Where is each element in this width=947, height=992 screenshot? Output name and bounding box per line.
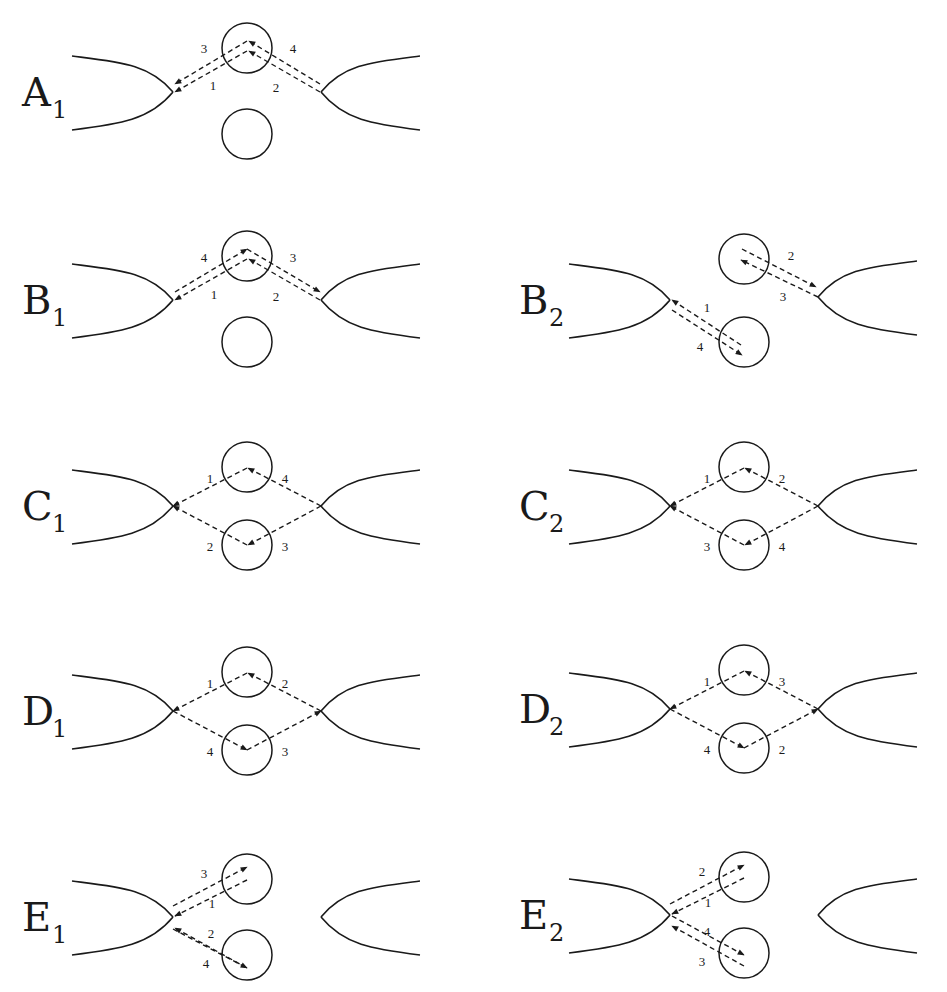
trajectory-segment xyxy=(672,310,742,355)
panel-d1: D11234 xyxy=(22,647,420,775)
segment-number-label: 4 xyxy=(290,41,297,56)
right-point-contact xyxy=(321,56,420,130)
panel-label-letter: E xyxy=(22,894,51,940)
segment-number-label: 1 xyxy=(704,674,711,689)
right-point-contact xyxy=(818,879,917,953)
panel-label-letter: E xyxy=(519,892,548,938)
left-point-contact xyxy=(72,881,173,955)
left-point-contact xyxy=(569,879,670,953)
segment-number-label: 1 xyxy=(704,300,711,315)
upper-scatterer-circle xyxy=(719,442,769,492)
left-point-contact xyxy=(72,56,173,130)
trajectory-diagram: A11234B11234B21234C11234C21234D11234D212… xyxy=(0,0,947,992)
segment-number-label: 3 xyxy=(704,539,711,554)
segment-number-label: 1 xyxy=(210,78,217,93)
panel-label-subscript: 1 xyxy=(52,304,67,332)
right-point-contact xyxy=(818,673,917,747)
segment-number-label: 1 xyxy=(209,896,216,911)
panels-layer: A11234B11234B21234C11234C21234D11234D212… xyxy=(21,23,917,980)
trajectory-segment xyxy=(247,249,320,292)
segment-number-label: 2 xyxy=(273,80,280,95)
upper-scatterer-circle xyxy=(222,854,272,904)
trajectory-segment xyxy=(249,41,320,84)
panel-label-letter: D xyxy=(22,688,54,734)
right-point-contact xyxy=(321,881,420,955)
right-point-contact xyxy=(321,264,420,338)
panel-label-subscript: 1 xyxy=(52,715,67,743)
upper-scatterer-circle xyxy=(719,852,769,902)
upper-scatterer-circle xyxy=(222,442,272,492)
lower-scatterer-circle xyxy=(719,317,769,367)
left-point-contact xyxy=(569,264,670,338)
panel-label-subscript: 1 xyxy=(52,510,67,538)
segment-number-label: 2 xyxy=(788,248,795,263)
panel-label-letter: C xyxy=(22,483,53,529)
panel-label-letter: A xyxy=(21,69,52,115)
panel-c2: C21234 xyxy=(519,442,917,570)
segment-number-label: 1 xyxy=(207,676,214,691)
segment-number-label: 4 xyxy=(201,250,208,265)
panel-b2: B21234 xyxy=(519,234,917,367)
segment-number-label: 2 xyxy=(699,864,706,879)
right-point-contact xyxy=(818,261,917,335)
panel-label-subscript: 2 xyxy=(549,919,564,947)
segment-number-label: 2 xyxy=(207,539,214,554)
segment-number-label: 2 xyxy=(779,471,786,486)
left-point-contact xyxy=(569,470,670,544)
segment-number-label: 3 xyxy=(699,954,706,969)
segment-number-label: 3 xyxy=(282,539,289,554)
panel-c1: C11234 xyxy=(22,442,420,570)
segment-number-label: 3 xyxy=(779,674,786,689)
segment-number-label: 2 xyxy=(273,289,280,304)
panel-label-subscript: 2 xyxy=(549,304,564,332)
segment-number-label: 4 xyxy=(207,744,214,759)
segment-number-label: 4 xyxy=(697,339,704,354)
upper-scatterer-circle xyxy=(222,231,272,281)
segment-number-label: 4 xyxy=(704,742,711,757)
segment-number-label: 3 xyxy=(290,250,297,265)
lower-scatterer-circle xyxy=(222,109,272,159)
panel-label-subscript: 1 xyxy=(52,96,67,124)
panel-label-letter: B xyxy=(519,277,548,323)
segment-number-label: 1 xyxy=(704,471,711,486)
segment-number-label: 3 xyxy=(780,289,787,304)
trajectory-segment xyxy=(175,249,247,292)
panel-label-letter: D xyxy=(519,686,551,732)
segment-number-label: 4 xyxy=(779,539,786,554)
segment-number-label: 3 xyxy=(201,41,208,56)
panel-label-letter: B xyxy=(22,277,51,323)
panel-d2: D21234 xyxy=(519,645,917,773)
segment-number-label: 1 xyxy=(211,287,218,302)
panel-label-subscript: 2 xyxy=(549,510,564,538)
segment-number-label: 2 xyxy=(282,676,289,691)
upper-scatterer-circle xyxy=(719,645,769,695)
left-point-contact xyxy=(569,673,670,747)
lower-scatterer-circle xyxy=(719,928,769,978)
lower-scatterer-circle xyxy=(222,930,272,980)
right-point-contact xyxy=(818,470,917,544)
segment-number-label: 3 xyxy=(201,866,208,881)
trajectory-segment xyxy=(742,249,816,287)
left-point-contact xyxy=(72,675,173,749)
segment-number-label: 3 xyxy=(282,744,289,759)
segment-number-label: 4 xyxy=(282,471,289,486)
panel-b1: B11234 xyxy=(22,231,420,367)
panel-a1: A11234 xyxy=(21,23,420,159)
segment-number-label: 2 xyxy=(208,926,215,941)
panel-label-subscript: 1 xyxy=(52,921,67,949)
trajectory-segment xyxy=(249,51,320,92)
segment-number-label: 1 xyxy=(207,471,214,486)
panel-label-letter: C xyxy=(519,483,550,529)
left-point-contact xyxy=(72,470,173,544)
panel-label-subscript: 2 xyxy=(549,713,564,741)
segment-number-label: 4 xyxy=(704,924,711,939)
right-point-contact xyxy=(321,675,420,749)
right-point-contact xyxy=(321,470,420,544)
trajectory-segment xyxy=(249,259,320,300)
left-point-contact xyxy=(72,264,173,338)
segment-number-label: 2 xyxy=(779,742,786,757)
lower-scatterer-circle xyxy=(222,317,272,367)
upper-scatterer-circle xyxy=(222,23,272,73)
panel-e1: E11234 xyxy=(22,854,420,980)
segment-number-label: 4 xyxy=(203,956,210,971)
